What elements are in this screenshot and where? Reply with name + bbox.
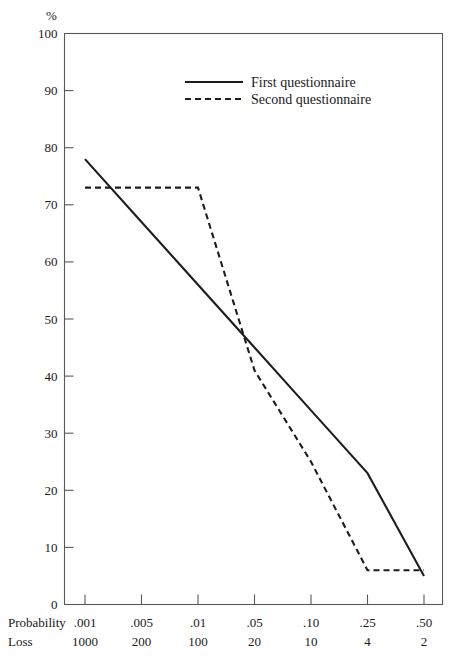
probability-tick-label: .50 [416, 615, 432, 630]
y-tick-label: 90 [45, 83, 58, 98]
y-tick-label: 80 [45, 140, 58, 155]
probability-tick-label: .10 [303, 615, 319, 630]
probability-tick-labels: .001.005.01.05.10.25.50 [74, 615, 433, 630]
y-tick-label: 100 [38, 26, 58, 41]
loss-tick-labels: 1000200100201042 [72, 634, 427, 649]
y-tick-label: 50 [45, 312, 58, 327]
loss-tick-label: 10 [305, 634, 318, 649]
y-axis-unit-label: % [46, 8, 57, 23]
loss-tick-label: 4 [364, 634, 371, 649]
y-tick-label: 40 [45, 369, 58, 384]
probability-tick-label: .05 [246, 615, 262, 630]
probability-tick-label: .001 [74, 615, 97, 630]
legend-label-second-questionnaire: Second questionnaire [251, 92, 371, 107]
y-tick-label: 20 [45, 483, 58, 498]
loss-tick-label: 200 [132, 634, 152, 649]
loss-tick-label: 20 [248, 634, 261, 649]
series-second-questionnaire [85, 188, 424, 571]
probability-row-header: Probability [8, 615, 66, 630]
loss-tick-label: 1000 [72, 634, 98, 649]
loss-tick-label: 100 [188, 634, 208, 649]
plot-frame [65, 34, 443, 605]
y-tick-label: 70 [45, 197, 58, 212]
loss-tick-label: 2 [421, 634, 428, 649]
y-axis-ticks: 0102030405060708090100 [38, 26, 74, 612]
legend: First questionnaire Second questionnaire [185, 75, 371, 107]
probability-tick-label: .005 [130, 615, 153, 630]
probability-tick-label: .01 [190, 615, 206, 630]
loss-row-header: Loss [8, 634, 33, 649]
y-tick-label: 30 [45, 426, 58, 441]
legend-label-first-questionnaire: First questionnaire [251, 75, 356, 90]
y-tick-label: 10 [45, 540, 58, 555]
x-axis-ticks [85, 595, 424, 605]
y-tick-label: 60 [45, 254, 58, 269]
chart-container: % 0102030405060708090100 Probability Los… [0, 0, 463, 667]
y-tick-label: 0 [51, 597, 58, 612]
line-chart: % 0102030405060708090100 Probability Los… [0, 0, 463, 667]
probability-tick-label: .25 [359, 615, 375, 630]
